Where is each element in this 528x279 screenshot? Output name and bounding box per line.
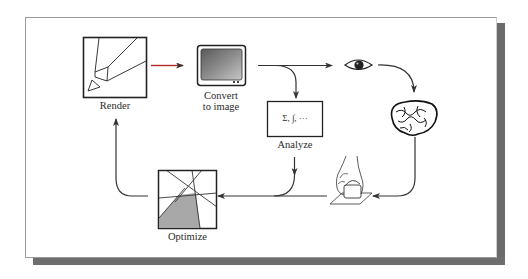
convert-label-line2: to image bbox=[196, 101, 246, 112]
arrow-brain-to-hand bbox=[373, 137, 415, 196]
diagram-graphics bbox=[0, 0, 528, 279]
diagram-canvas: Render Convert to image Σ, ∫, ··· Analyz… bbox=[0, 0, 528, 279]
analyze-label: Analyze bbox=[270, 139, 320, 150]
arrow-optimize-to-render bbox=[116, 119, 148, 196]
arrow-convert-to-analyze bbox=[276, 66, 296, 99]
render-label: Render bbox=[93, 100, 137, 111]
arrow-eye-to-brain bbox=[378, 65, 414, 92]
convert-label-line1: Convert bbox=[196, 90, 246, 101]
optimize-polygon-icon bbox=[159, 170, 218, 229]
analyze-box-text: Σ, ∫, ··· bbox=[267, 113, 323, 123]
render-pencil-icon bbox=[84, 38, 147, 98]
optimize-label: Optimize bbox=[160, 231, 215, 242]
hand-pressing-button-icon bbox=[330, 156, 372, 204]
arrow-analyze-merge bbox=[274, 175, 295, 196]
eye-icon bbox=[345, 60, 372, 70]
monitor-icon bbox=[198, 46, 246, 86]
brain-icon bbox=[392, 101, 437, 135]
